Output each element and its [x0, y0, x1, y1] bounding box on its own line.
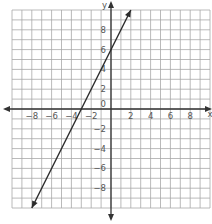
x-axis-left-arrow-icon: [3, 106, 10, 112]
y-tick-label: −8: [93, 183, 106, 193]
x-tick-label: 4: [148, 111, 153, 121]
y-axis-up-arrow-icon: [108, 1, 114, 8]
x-tick-label: −2: [85, 111, 98, 121]
origin-label: 0: [101, 99, 106, 109]
x-axis-label: x: [207, 109, 212, 119]
y-tick-label: −2: [93, 124, 106, 134]
y-tick-label: −4: [93, 144, 106, 154]
y-axis-label: y: [102, 0, 107, 10]
x-tick-label: 2: [128, 111, 133, 121]
x-tick-label: 6: [168, 111, 173, 121]
y-tick-label: 6: [101, 45, 106, 55]
y-axis-down-arrow-icon: [108, 214, 114, 221]
x-tick-label: 8: [187, 111, 192, 121]
x-tick-label: −6: [45, 111, 58, 121]
coordinate-plane: −8−6−4−224688642−2−4−6−80yx: [0, 0, 212, 224]
y-tick-label: 2: [101, 84, 106, 94]
x-tick-label: −8: [26, 111, 39, 121]
y-tick-label: 8: [101, 25, 106, 35]
y-tick-label: −6: [93, 163, 106, 173]
